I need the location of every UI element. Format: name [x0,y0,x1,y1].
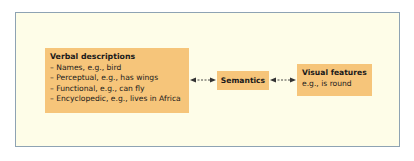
bidirectional-dashed-arrow-icon [190,76,216,84]
verbal-item-perceptual: – Perceptual, e.g., has wings [50,73,184,83]
verbal-descriptions-box: Verbal descriptions – Names, e.g., bird … [45,48,189,113]
bidirectional-dashed-arrow-icon [270,76,296,84]
verbal-descriptions-title: Verbal descriptions [50,52,184,62]
semantics-box: Semantics [217,71,269,90]
visual-features-box: Visual features e.g., is round [297,64,372,96]
visual-features-example: e.g., is round [302,79,367,90]
visual-features-title: Visual features [302,68,367,79]
verbal-item-encyclopedic: – Encyclopedic, e.g., lives in Africa [50,94,184,104]
verbal-item-names: – Names, e.g., bird [50,63,184,73]
semantics-title: Semantics [221,76,265,85]
verbal-item-functional: – Functional, e.g., can fly [50,84,184,94]
